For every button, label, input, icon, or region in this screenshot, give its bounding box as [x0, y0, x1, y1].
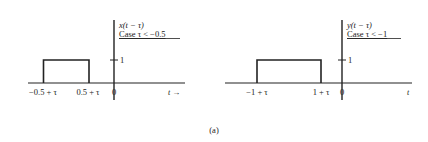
x-tick-label-start: −0.5 + τ	[29, 87, 57, 97]
plot-x-shifted: x(t − τ) Case τ < −0.5 1 −0.5 + τ 0.5 + …	[28, 20, 185, 100]
origin-label: 0	[112, 87, 116, 97]
x-tick-label-end: 1 + τ	[313, 87, 330, 97]
origin-label: 0	[340, 87, 344, 97]
plot-y-shifted: y(t − τ) Case τ < −1 1 −1 + τ 1 + τ 0 t	[225, 20, 412, 100]
case-label: Case τ < −1	[347, 29, 387, 39]
figure-label: (a)	[209, 125, 219, 135]
x-axis-label: t	[407, 88, 410, 97]
y-tick-label: 1	[120, 55, 124, 65]
case-label: Case τ < −0.5	[119, 29, 166, 39]
x-tick-label-start: −1 + τ	[246, 87, 268, 97]
x-axis-label: t →	[168, 88, 180, 97]
figure: x(t − τ) Case τ < −0.5 1 −0.5 + τ 0.5 + …	[0, 0, 428, 142]
pulse	[257, 60, 321, 83]
y-tick-label: 1	[348, 55, 352, 65]
x-tick-label-end: 0.5 + τ	[76, 87, 100, 97]
pulse	[44, 60, 90, 83]
